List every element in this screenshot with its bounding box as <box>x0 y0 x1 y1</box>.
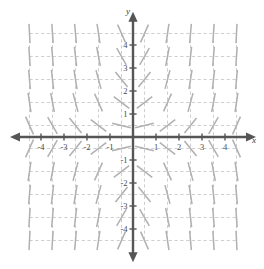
y-tick-label: 3 <box>123 63 127 73</box>
y-tick-label: 2 <box>123 86 127 96</box>
x-tick-label: -3 <box>60 142 67 152</box>
y-tick-label: -3 <box>120 201 127 211</box>
y-tick-label: -2 <box>120 178 127 188</box>
coordinate-plane-svg: -4-3-2-112344321-1-2-3-4 x y <box>0 0 264 269</box>
x-tick-label: -1 <box>106 142 113 152</box>
x-tick-label: -4 <box>37 142 45 152</box>
x-tick-label: 2 <box>177 142 181 152</box>
y-tick-label: -4 <box>120 224 128 234</box>
y-tick-label: -1 <box>120 155 127 165</box>
y-tick-label: 1 <box>123 109 127 119</box>
x-tick-label: 1 <box>154 142 158 152</box>
slope-field-figure: -4-3-2-112344321-1-2-3-4 x y <box>0 0 264 269</box>
x-axis-label: x <box>251 135 256 145</box>
y-axis-label: y <box>125 6 130 16</box>
x-tick-label: 3 <box>200 142 204 152</box>
x-tick-label: -2 <box>83 142 90 152</box>
